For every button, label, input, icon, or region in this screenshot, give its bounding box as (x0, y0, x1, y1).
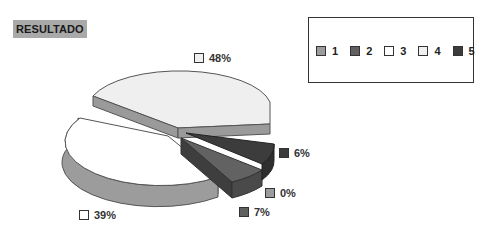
data-label-2: 7% (239, 206, 270, 218)
legend-item-4: 4 (418, 45, 440, 57)
swatch-icon (239, 207, 249, 217)
swatch-icon (316, 46, 326, 56)
swatch-icon (279, 148, 289, 158)
legend-item-1: 1 (316, 45, 338, 57)
legend-item-2: 2 (350, 45, 372, 57)
swatch-icon (350, 46, 360, 56)
data-label-4: 48% (194, 52, 231, 64)
data-label-3: 39% (79, 209, 116, 221)
chart-legend: 1 2 3 4 5 (308, 17, 474, 83)
legend-item-3: 3 (384, 45, 406, 57)
swatch-icon (418, 46, 428, 56)
swatch-icon (265, 188, 275, 198)
swatch-icon (384, 46, 394, 56)
swatch-icon (79, 210, 89, 220)
data-label-5: 6% (279, 147, 310, 159)
legend-item-5: 5 (453, 45, 475, 57)
data-label-1: 0% (265, 187, 296, 199)
swatch-icon (194, 53, 204, 63)
swatch-icon (453, 46, 463, 56)
